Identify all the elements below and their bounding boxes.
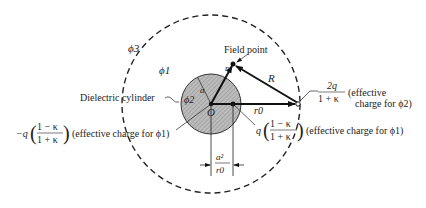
label-phi2: ϕ2 <box>184 94 194 105</box>
label-R: R <box>267 72 275 84</box>
dielectric-leader <box>165 97 179 102</box>
label-dielectric-cylinder: Dielectric cylinder <box>80 92 155 103</box>
label-field-point: Field point <box>224 44 268 55</box>
center-charge-rparen: ) <box>63 122 70 145</box>
label-r0: r0 <box>254 105 263 116</box>
label-r: r <box>225 63 229 73</box>
image-charge-numerator: 1 − κ <box>270 118 291 129</box>
R-vector <box>236 66 298 103</box>
center-charge-note: (effective charge for ϕ1) <box>72 128 169 140</box>
outer-charge-note-2: charge for ϕ2) <box>355 98 412 110</box>
dim-fraction-numerator: a² <box>216 152 224 162</box>
outer-charge-numerator: 2q <box>327 80 337 91</box>
image-charge-lparen: ( <box>263 119 270 142</box>
label-phi3: ϕ3 <box>128 42 140 54</box>
dielectric-cylinder-diagram: ϕ3 ϕ1 ϕ2 Field point Dielectric cylinder… <box>0 0 426 208</box>
outer-charge-denominator: 1 + κ <box>318 93 339 104</box>
image-charge-denominator: 1 + κ <box>270 131 291 142</box>
field-point-leader <box>237 54 248 62</box>
image-charge-note: (effective charge for ϕ1) <box>306 125 403 137</box>
label-phi1: ϕ1 <box>159 64 170 76</box>
outer-charge-leader <box>300 91 318 101</box>
center-charge-prefix: −q <box>16 128 28 139</box>
label-O: O <box>207 106 215 118</box>
field-point <box>231 62 236 67</box>
image-charge-rparen: ) <box>297 119 304 142</box>
label-a: a <box>200 85 205 95</box>
image-charge-prefix: q <box>256 125 261 136</box>
center-charge-numerator: 1 − κ <box>37 121 58 132</box>
center-charge-denominator: 1 + κ <box>37 134 58 145</box>
outer-charge-point <box>296 102 300 106</box>
center-charge-lparen: ( <box>30 122 37 145</box>
dim-fraction-denominator: r0 <box>216 165 225 175</box>
